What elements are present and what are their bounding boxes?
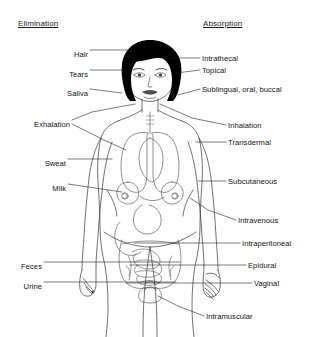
label-feces: Feces [6, 262, 42, 271]
body-outline [98, 121, 203, 337]
label-epidural: Epidural [248, 261, 276, 270]
label-milk: Milk [26, 184, 66, 193]
label-exhalation: Exhalation [12, 120, 70, 129]
internal-organs [115, 112, 183, 303]
label-transdermal: Transdermal [228, 138, 271, 147]
label-saliva: Saliva [48, 89, 88, 98]
label-subcutaneous: Subcutaneous [228, 177, 277, 186]
label-intramuscular: Intramuscular [206, 312, 253, 321]
label-vaginal: Vaginal [254, 279, 279, 288]
label-topical: Topical [202, 66, 226, 75]
diagram-canvas: Elimination Absorption Hair Tears Saliva… [0, 0, 310, 337]
absorption-header: Absorption [203, 19, 242, 28]
label-sweat: Sweat [26, 159, 66, 168]
label-sublingual-oral-buccal: Sublingual, oral, buccal [202, 85, 282, 94]
label-hair: Hair [50, 50, 88, 59]
label-intravenous: Intravenous [238, 216, 278, 225]
label-urine: Urine [6, 282, 42, 291]
elimination-header: Elimination [18, 19, 58, 28]
arms-group [80, 138, 221, 299]
label-intraperitoneal: Intraperitoneal [242, 239, 291, 248]
label-intrathecal: Intrathecal [202, 54, 238, 63]
label-inhalation: Inhalation [228, 121, 261, 130]
label-tears: Tears [48, 70, 88, 79]
